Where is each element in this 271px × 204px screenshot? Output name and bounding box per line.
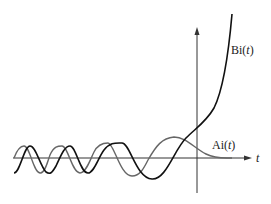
ai-label-close: ) <box>231 138 235 152</box>
x-axis-label-var: t <box>256 151 259 165</box>
bi-label: Bi(t) <box>231 43 254 58</box>
ai-label: Ai(t) <box>212 138 235 153</box>
x-axis-label: t <box>256 151 259 166</box>
y-axis-arrow-icon <box>195 27 200 35</box>
bi-label-name: Bi( <box>231 43 246 57</box>
x-axis-arrow-icon <box>244 156 252 161</box>
ai-label-name: Ai( <box>212 138 228 152</box>
bi-curve <box>14 14 232 179</box>
airy-functions-plot <box>0 0 271 204</box>
bi-label-close: ) <box>250 43 254 57</box>
